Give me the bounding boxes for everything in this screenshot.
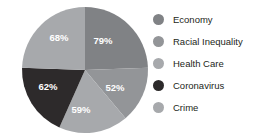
- legend-item-label: Crime: [173, 102, 198, 113]
- pie-slice-value-label: 62%: [38, 81, 58, 92]
- pie-slice-value-label: 59%: [71, 104, 91, 115]
- pie-chart-plot-area: 79%52%59%62%68%: [0, 0, 155, 137]
- legend-item-label: Health Care: [173, 58, 224, 69]
- legend-item-label: Racial Inequality: [173, 36, 243, 47]
- chart-legend: Economy Racial Inequality Health Care Co…: [150, 8, 255, 129]
- pie-slice-value-label: 79%: [93, 35, 113, 46]
- legend-item-label: Economy: [173, 14, 213, 25]
- legend-item-health-care[interactable]: Health Care: [150, 52, 255, 74]
- legend-item-economy[interactable]: Economy: [150, 8, 255, 30]
- pie-slice-value-label: 68%: [49, 32, 69, 43]
- legend-swatch-icon: [153, 14, 164, 25]
- legend-item-crime[interactable]: Crime: [150, 96, 255, 118]
- legend-item-coronavirus[interactable]: Coronavirus: [150, 74, 255, 96]
- legend-item-racial-inequality[interactable]: Racial Inequality: [150, 30, 255, 52]
- legend-swatch-icon: [153, 36, 164, 47]
- legend-swatch-icon: [153, 80, 164, 91]
- legend-swatch-icon: [153, 102, 164, 113]
- pie-slice-value-label: 52%: [105, 82, 125, 93]
- pie-chart-svg: 79%52%59%62%68%: [0, 0, 155, 137]
- pie-chart-figure: 79%52%59%62%68% Economy Racial Inequalit…: [0, 0, 255, 137]
- legend-swatch-icon: [153, 58, 164, 69]
- legend-item-label: Coronavirus: [173, 80, 224, 91]
